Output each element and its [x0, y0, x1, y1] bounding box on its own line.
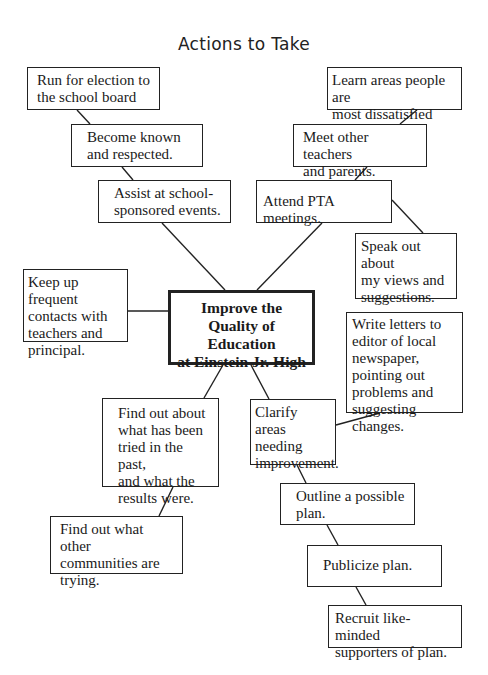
- node-find-past: Find out about what has been tried in th…: [102, 398, 219, 487]
- node-meet-teachers: Meet other teachers and parents.: [293, 124, 427, 167]
- node-find-other-communities: Find out what other communities are tryi…: [50, 516, 183, 574]
- node-clarify-areas: Clarify areas needing improvement.: [250, 399, 336, 465]
- node-write-letters: Write letters to editor of local newspap…: [346, 312, 463, 413]
- node-keep-contacts: Keep up frequent contacts with teachers …: [23, 269, 128, 342]
- node-run-for-election: Run for election to the school board: [27, 67, 160, 110]
- node-become-known: Become known and respected.: [71, 124, 203, 167]
- node-speak-out: Speak out about my views and suggestions…: [355, 233, 457, 299]
- node-recruit-supporters: Recruit like-minded supporters of plan.: [328, 605, 462, 648]
- node-publicize-plan: Publicize plan.: [307, 545, 442, 587]
- node-assist-events: Assist at school- sponsored events.: [98, 180, 231, 223]
- node-outline-plan: Outline a possible plan.: [280, 483, 415, 525]
- central-goal: Improve the Quality of Education at Eins…: [168, 290, 315, 365]
- node-attend-pta: Attend PTA meetings.: [256, 180, 392, 223]
- node-learn-areas: Learn areas people are most dissatisfied…: [327, 67, 462, 110]
